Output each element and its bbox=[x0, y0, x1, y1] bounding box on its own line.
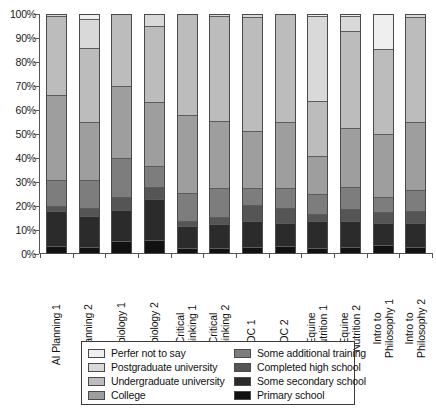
bar[interactable] bbox=[275, 14, 296, 254]
bar[interactable] bbox=[373, 14, 394, 254]
bar-segment bbox=[406, 15, 425, 17]
legend-item-label: Completed high school bbox=[257, 361, 361, 373]
x-axis-category-label-line: AI Planning 1 bbox=[50, 304, 62, 365]
bar-segment bbox=[80, 123, 99, 181]
bar-segment bbox=[406, 224, 425, 248]
bar-segment bbox=[308, 14, 327, 17]
y-axis-tick-label: 10% bbox=[0, 225, 36, 236]
bar-segment bbox=[210, 218, 229, 225]
x-axis-category-label-line: Intro to bbox=[370, 313, 382, 345]
bar-segment bbox=[80, 248, 99, 253]
bar-segment bbox=[341, 32, 360, 129]
bar-segment bbox=[112, 242, 131, 253]
x-axis-category-label: CriticalThinking 1 bbox=[171, 258, 204, 340]
legend-item[interactable]: Perfer not to say bbox=[88, 346, 225, 360]
x-axis-category-label: Intro toPhilosophy 1 bbox=[367, 258, 400, 340]
legend-item[interactable]: Some additional training bbox=[234, 346, 366, 360]
legend-item[interactable]: Some secondary school bbox=[234, 374, 366, 388]
bar-segment bbox=[210, 189, 229, 218]
bar-segment bbox=[406, 123, 425, 190]
legend-swatch-icon bbox=[88, 377, 105, 386]
bar-segment bbox=[341, 222, 360, 248]
bar-segment bbox=[276, 224, 295, 247]
bar[interactable] bbox=[242, 14, 263, 254]
bar-segment bbox=[47, 15, 66, 16]
legend-swatch-icon bbox=[88, 363, 105, 372]
bar-segment bbox=[210, 249, 229, 253]
bar-segment bbox=[47, 14, 66, 15]
y-axis-tick-mark bbox=[34, 14, 39, 15]
legend-item[interactable]: Undergraduate university bbox=[88, 374, 225, 388]
bar-segment bbox=[145, 103, 164, 167]
x-axis-category-label-line: Critical bbox=[207, 313, 219, 344]
legend-item[interactable]: Postgraduate university bbox=[88, 360, 225, 374]
bar[interactable] bbox=[405, 14, 426, 254]
legend-item[interactable]: Primary school bbox=[234, 388, 366, 402]
x-axis-category-label: Astrobiology 2 bbox=[138, 258, 171, 340]
bar-segment bbox=[47, 247, 66, 253]
y-axis-tick-label: 60% bbox=[0, 105, 36, 116]
legend-swatch-icon bbox=[234, 391, 251, 400]
bar[interactable] bbox=[79, 14, 100, 254]
bar[interactable] bbox=[111, 14, 132, 254]
bar[interactable] bbox=[144, 14, 165, 254]
x-axis-category-label: AI Planning 2 bbox=[73, 258, 106, 340]
y-axis-tick-mark bbox=[34, 62, 39, 63]
y-axis-tick-label: 0% bbox=[0, 249, 36, 260]
bar-segment bbox=[47, 17, 66, 96]
y-axis-tick-label: 50% bbox=[0, 129, 36, 140]
x-axis-category-label: Intro toPhilosophy 2 bbox=[399, 258, 432, 340]
x-axis-category-label: Astrobiology 1 bbox=[105, 258, 138, 340]
bar-segment bbox=[374, 213, 393, 224]
y-axis-tick-mark bbox=[34, 254, 39, 255]
bar[interactable] bbox=[177, 14, 198, 254]
bar-segment bbox=[210, 15, 229, 16]
bar-segment bbox=[210, 122, 229, 189]
legend-item-label: Postgraduate university bbox=[111, 361, 217, 373]
bar[interactable] bbox=[209, 14, 230, 254]
legend-item-label: Primary school bbox=[257, 389, 324, 401]
bar-segment bbox=[308, 222, 327, 250]
bar-segment bbox=[80, 181, 99, 209]
y-axis-tick-label: 80% bbox=[0, 57, 36, 68]
y-axis-tick-mark bbox=[34, 134, 39, 135]
legend-item-label: Some secondary school bbox=[257, 375, 366, 387]
bar-segment bbox=[308, 17, 327, 102]
legend-swatch-icon bbox=[234, 363, 251, 372]
x-axis-category-label-line: Equine bbox=[305, 312, 317, 344]
bar[interactable] bbox=[307, 14, 328, 254]
y-axis-tick-mark bbox=[34, 110, 39, 111]
bar-segment bbox=[374, 198, 393, 214]
bar-segment bbox=[47, 96, 66, 181]
legend-item-label: Perfer not to say bbox=[111, 347, 186, 359]
bar-segment bbox=[112, 211, 131, 242]
y-axis-tick-mark bbox=[34, 86, 39, 87]
legend-item[interactable]: College bbox=[88, 388, 225, 402]
legend-swatch-icon bbox=[88, 391, 105, 400]
plot-area: 0%10%20%30%40%50%60%70%80%90%100% bbox=[0, 0, 436, 262]
legend-item-label: College bbox=[111, 389, 146, 401]
stacked-bar-chart-figure: 0%10%20%30%40%50%60%70%80%90%100% AI Pla… bbox=[0, 0, 436, 418]
y-axis-tick-label: 100% bbox=[0, 9, 36, 20]
bar-segment bbox=[374, 224, 393, 246]
bar-segment bbox=[145, 200, 164, 241]
bar-segment bbox=[243, 206, 262, 222]
bar-segment bbox=[406, 14, 425, 15]
bar-segment bbox=[80, 20, 99, 49]
bar-segment bbox=[178, 116, 197, 194]
x-axis-category-label: EDC 2 bbox=[269, 258, 302, 340]
y-axis-tick-label: 20% bbox=[0, 201, 36, 212]
x-axis-category-label: EquineNutrition 1 bbox=[301, 258, 334, 340]
bar[interactable] bbox=[340, 14, 361, 254]
legend-item[interactable]: Completed high school bbox=[234, 360, 366, 374]
bar-segment bbox=[341, 17, 360, 33]
x-axis-category-label: EquineNutrition 2 bbox=[334, 258, 367, 340]
bar-segment bbox=[80, 14, 99, 20]
y-axis-tick-label: 90% bbox=[0, 33, 36, 44]
bar[interactable] bbox=[46, 14, 67, 254]
bar-segment bbox=[112, 87, 131, 159]
x-axis-category-label: CriticalThinking 2 bbox=[203, 258, 236, 340]
bar-segment bbox=[243, 14, 262, 15]
y-axis-tick-mark bbox=[34, 158, 39, 159]
bar-segment bbox=[308, 157, 327, 195]
